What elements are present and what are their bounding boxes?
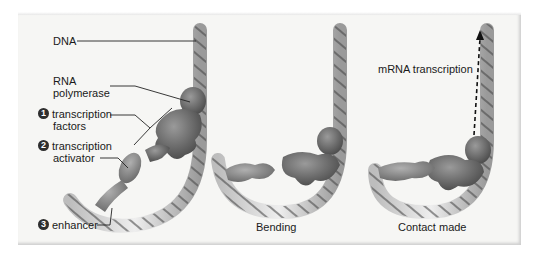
label-rna-polymerase-line1: RNA — [53, 75, 110, 87]
label-transcription-activator-line1: transcription — [52, 140, 112, 152]
step-2-badge: 2 — [38, 140, 49, 151]
panel-3-dna-loop — [375, 30, 491, 212]
label-enhancer: 3enhancer — [38, 219, 98, 231]
label-transcription-activator-line2: activator — [38, 152, 112, 164]
label-rna-polymerase: RNA polymerase — [53, 75, 110, 99]
transcription-activator-shape — [114, 149, 146, 186]
label-transcription-factors-line1: transcription — [52, 108, 112, 120]
caption-bending: Bending — [256, 221, 296, 233]
panel-2-dna-loop — [218, 30, 343, 212]
label-enhancer-text: enhancer — [52, 219, 98, 231]
caption-contact-made: Contact made — [398, 221, 466, 233]
label-rna-polymerase-line2: polymerase — [53, 87, 110, 99]
label-transcription-activator: 2transcription activator — [38, 140, 112, 164]
label-transcription-factors: 1transcription factors — [38, 108, 112, 132]
label-dna: DNA — [53, 35, 76, 47]
label-mrna-transcription: mRNA transcription — [378, 63, 473, 75]
label-transcription-factors-line2: factors — [38, 120, 112, 132]
step-3-badge: 3 — [38, 219, 49, 230]
mrna-arrow-line — [474, 38, 480, 135]
step-1-badge: 1 — [38, 108, 49, 119]
